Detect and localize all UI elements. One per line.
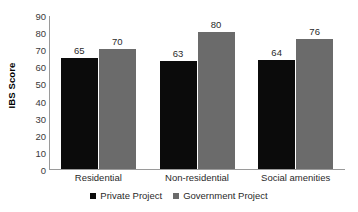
legend-item[interactable]: Private Project: [90, 190, 162, 201]
y-axis-tick-label: 90: [35, 11, 46, 22]
bar-group: 6476: [258, 16, 333, 169]
y-axis-tick-label: 10: [35, 147, 46, 158]
bar: 65: [61, 58, 98, 169]
legend-label: Government Project: [183, 190, 267, 201]
x-axis-category-label: Non-residential: [165, 172, 229, 183]
plot-area: 657063806476: [49, 16, 345, 170]
bar: 80: [198, 32, 235, 169]
y-axis-title: IBS Score: [4, 0, 20, 170]
bar-value-label: 65: [74, 45, 85, 56]
x-axis-category-label: Social amenities: [261, 172, 330, 183]
legend-item[interactable]: Government Project: [173, 190, 267, 201]
bar: 64: [258, 60, 295, 170]
bar-value-label: 80: [211, 19, 222, 30]
bar-group: 6380: [160, 16, 235, 169]
bar-value-label: 63: [173, 48, 184, 59]
y-axis-tick-label: 20: [35, 130, 46, 141]
y-axis-tick-label: 40: [35, 96, 46, 107]
bar-value-label: 70: [112, 36, 123, 47]
square-marker-black-icon: [90, 193, 96, 199]
bar-value-label: 76: [309, 26, 320, 37]
bar: 70: [99, 49, 136, 169]
bar-value-label: 64: [271, 47, 282, 58]
bar-group: 6570: [61, 16, 136, 169]
y-axis-line: [49, 16, 50, 170]
y-axis-tick-label: 50: [35, 79, 46, 90]
y-axis-tick-label: 80: [35, 28, 46, 39]
y-axis-tick-labels: 9080706050403020100: [22, 16, 46, 170]
legend-label: Private Project: [100, 190, 162, 201]
y-axis-tick-label: 70: [35, 45, 46, 56]
y-axis-tick-label: 60: [35, 62, 46, 73]
x-axis-category-labels: ResidentialNon-residentialSocial ameniti…: [49, 172, 345, 188]
chart-legend: Private ProjectGovernment Project: [0, 190, 358, 201]
square-marker-gray-icon: [173, 193, 179, 199]
y-axis-title-text: IBS Score: [7, 62, 18, 108]
x-axis-line: [49, 169, 345, 170]
x-axis-category-label: Residential: [75, 172, 122, 183]
y-axis-tick-label: 30: [35, 113, 46, 124]
y-axis-tick-label: 0: [41, 165, 46, 176]
bar: 63: [160, 61, 197, 169]
bar-chart: IBS Score 9080706050403020100 6570638064…: [0, 0, 358, 212]
bar: 76: [296, 39, 333, 169]
